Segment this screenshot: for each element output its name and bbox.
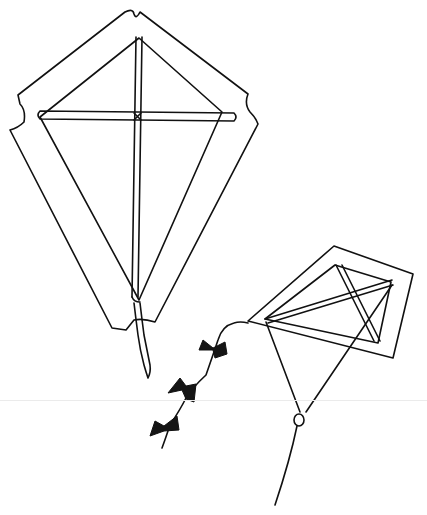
large-kite-tail-ribbon bbox=[132, 297, 150, 378]
small-kite-spar-1 bbox=[265, 280, 393, 323]
tail-bows bbox=[150, 340, 227, 436]
small-kite-flying-line bbox=[275, 426, 297, 505]
large-kite-inner-border bbox=[40, 38, 222, 300]
small-kite-ring bbox=[294, 414, 304, 426]
scan-seam bbox=[0, 400, 427, 401]
large-kite-spine bbox=[132, 37, 142, 297]
kites-drawing bbox=[0, 0, 427, 515]
small-kite bbox=[162, 246, 413, 505]
large-kite bbox=[10, 10, 258, 378]
tail-bow-2 bbox=[168, 378, 196, 402]
tail-bow-3 bbox=[150, 416, 179, 436]
